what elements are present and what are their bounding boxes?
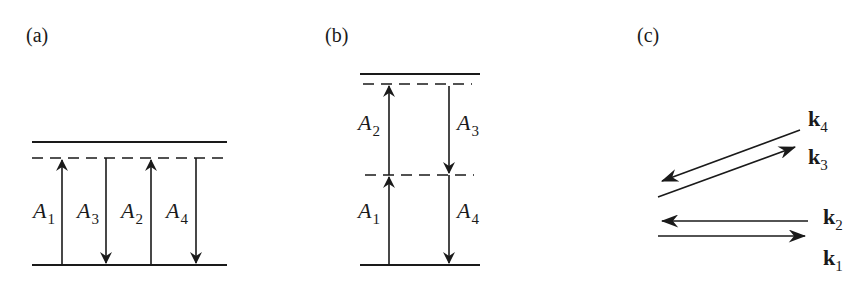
transition-label: A1 [31, 198, 55, 227]
energy-level-diagram: (a) A1 A3 A2 A4 (b) A2 A3 A1 A4 (c) [0, 0, 868, 284]
panel-a-label: (a) [26, 24, 48, 47]
vector-label: k4 [808, 106, 828, 135]
transition-label: A3 [455, 110, 479, 139]
panel-c: (c) k4 k3 k2 k1 [637, 24, 843, 274]
panel-b-label: (b) [325, 24, 348, 47]
panel-c-label: (c) [637, 24, 659, 47]
transition-label: A2 [119, 198, 143, 227]
transition-label: A1 [356, 198, 380, 227]
vector-label: k2 [823, 204, 843, 233]
panel-b: (b) A2 A3 A1 A4 [325, 24, 480, 265]
transition-label: A3 [75, 198, 99, 227]
transition-label: A2 [356, 110, 380, 139]
transition-label: A4 [164, 198, 188, 227]
vector-k4-arrow-icon [662, 130, 800, 181]
vector-k3-arrow-icon [658, 147, 795, 197]
vector-label: k1 [823, 245, 843, 274]
panel-a: (a) A1 A3 A2 A4 [26, 24, 227, 265]
vector-label: k3 [808, 144, 828, 173]
transition-label: A4 [455, 198, 479, 227]
